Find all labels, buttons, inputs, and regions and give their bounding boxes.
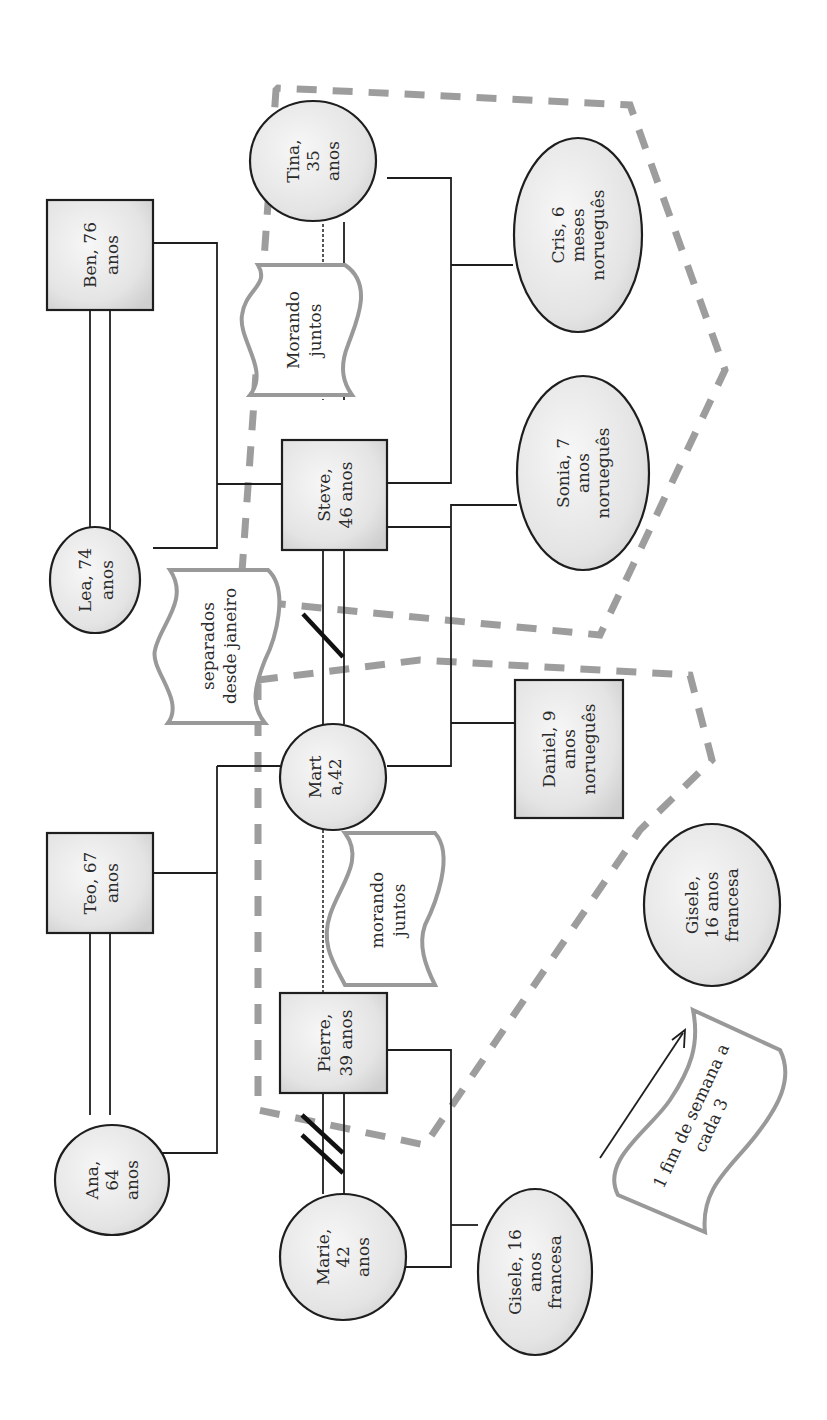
person-gisele-line2: anos: [525, 1252, 545, 1292]
person-teo-line1: Teo, 67: [80, 852, 100, 915]
person-ana-line3: anos: [122, 1160, 142, 1200]
note-steve-tina-cohabiting: Morando juntos: [242, 265, 361, 395]
genogram-diagram: Ben, 76 anos Lea, 74 anos Teo, 67 anos A…: [0, 0, 827, 1420]
person-daniel-line3: norueguês: [579, 704, 599, 795]
parent-link-steve-marta: [387, 505, 517, 766]
parent-link-ben-lea: [153, 243, 217, 548]
person-pierre-line1: Pierre,: [314, 1014, 334, 1073]
person-steve[interactable]: Steve, 46 anos: [282, 440, 387, 550]
person-cris-line3: norueguês: [588, 190, 608, 281]
person-teo[interactable]: Teo, 67 anos: [47, 833, 153, 933]
person-tina-line3: anos: [323, 141, 343, 181]
person-gisele-with-marie[interactable]: Gisele, 16 anos francesa: [478, 1189, 592, 1355]
parent-link-steve-tina: [387, 178, 451, 483]
person-gisele-line3: francesa: [545, 1235, 565, 1309]
person-gisele-visiting-line3: francesa: [722, 868, 742, 942]
note-marta-pierre-line2: juntos: [389, 884, 409, 939]
person-cris-line2: meses: [568, 208, 588, 262]
person-gisele-visiting-line2: 16 anos: [702, 871, 722, 938]
person-marta-line2: a,42: [325, 758, 345, 795]
person-sonia-line1: Sonia, 7: [553, 438, 573, 508]
person-lea[interactable]: Lea, 74 anos: [50, 527, 140, 633]
person-marie-line2: 42: [333, 1246, 353, 1268]
person-tina-line2: 35: [303, 150, 323, 172]
person-sonia[interactable]: Sonia, 7 anos norueguês: [517, 376, 649, 570]
person-tina-line1: Tina,: [283, 139, 303, 182]
person-teo-line2: anos: [102, 863, 122, 903]
note-steve-marta-separated: separados desde janeiro: [155, 570, 280, 723]
person-ana-line2: 64: [102, 1169, 122, 1191]
person-ben-line2: anos: [102, 235, 122, 275]
person-daniel[interactable]: Daniel, 9 anos norueguês: [515, 680, 623, 818]
note-marta-pierre-cohabiting: morando juntos: [327, 833, 444, 985]
person-tina[interactable]: Tina, 35 anos: [250, 101, 376, 221]
person-marta-line1: Mart: [305, 756, 325, 799]
person-marie[interactable]: Marie, 42 anos: [280, 1194, 406, 1320]
note-marta-pierre-line1: morando: [367, 872, 387, 949]
note-steve-marta-line1: separados: [198, 602, 218, 690]
person-gisele-visiting-line1: Gisele,: [682, 876, 702, 935]
person-sonia-line3: norueguês: [593, 428, 613, 519]
person-sonia-line2: anos: [573, 453, 593, 493]
person-pierre[interactable]: Pierre, 39 anos: [280, 993, 387, 1093]
note-steve-marta-line2: desde janeiro: [220, 588, 240, 704]
person-steve-line2: 46 anos: [336, 461, 356, 528]
person-cris[interactable]: Cris, 6 meses norueguês: [514, 138, 642, 332]
person-daniel-line1: Daniel, 9: [539, 710, 559, 787]
person-marie-line1: Marie,: [313, 1229, 333, 1286]
person-ana-line1: Ana,: [82, 1161, 102, 1201]
person-marta[interactable]: Mart a,42: [280, 724, 386, 830]
person-gisele-visiting[interactable]: Gisele, 16 anos francesa: [644, 824, 780, 986]
person-daniel-line2: anos: [559, 729, 579, 769]
note-steve-tina-line1: Morando: [283, 291, 303, 369]
person-cris-line1: Cris, 6: [548, 207, 568, 264]
note-visit-frequency: 1 fim de semana a cada 3: [614, 1010, 785, 1232]
person-gisele-line1: Gisele, 16: [505, 1229, 525, 1315]
person-marie-line3: anos: [353, 1237, 373, 1277]
person-lea-line1: Lea, 74: [75, 548, 95, 612]
person-pierre-line2: 39 anos: [336, 1009, 356, 1076]
person-ana[interactable]: Ana, 64 anos: [55, 1125, 169, 1235]
person-ben-line1: Ben, 76: [80, 222, 100, 288]
person-steve-line1: Steve,: [314, 468, 334, 522]
person-ben[interactable]: Ben, 76 anos: [47, 200, 153, 310]
note-steve-tina-line2: juntos: [305, 304, 325, 359]
person-lea-line2: anos: [97, 560, 117, 600]
parent-link-teo-ana: [153, 873, 217, 1153]
